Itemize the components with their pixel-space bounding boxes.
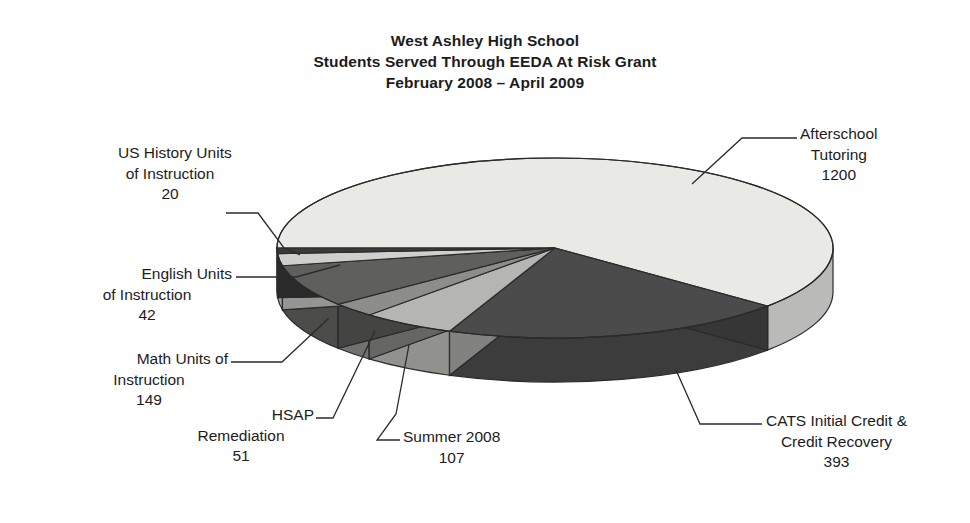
callout-math-value: 149	[70, 390, 228, 411]
callout-math-line2: Instruction	[70, 370, 228, 391]
callout-hsap-value: 51	[168, 446, 314, 467]
callout-ushistory-value: 20	[118, 184, 222, 205]
callout-summer-line1: Summer 2008	[403, 427, 500, 448]
callout-ushistory-line1: US History Units	[118, 143, 222, 164]
callout-ushistory: US History Units of Instruction 20	[118, 143, 222, 205]
pie-slices-group	[277, 158, 833, 382]
callout-summer: Summer 2008 107	[403, 427, 500, 468]
callout-english-line1: English Units	[62, 264, 232, 285]
leader-line-cats	[676, 370, 762, 424]
callout-hsap: HSAP Remediation 51	[168, 405, 314, 467]
callout-afterschool-value: 1200	[800, 165, 878, 186]
callout-math: Math Units of Instruction 149	[70, 349, 228, 411]
callout-cats-line1: CATS Initial Credit &	[766, 411, 907, 432]
callout-cats: CATS Initial Credit & Credit Recovery 39…	[766, 411, 907, 473]
callout-summer-value: 107	[403, 448, 500, 469]
callout-ushistory-line2: of Instruction	[118, 164, 222, 185]
callout-english: English Units of Instruction 42	[62, 264, 232, 326]
callout-english-line2: of Instruction	[62, 285, 232, 306]
pie-chart-figure: West Ashley High School Students Served …	[0, 0, 970, 523]
callout-afterschool-line1: Afterschool	[800, 124, 878, 145]
callout-english-value: 42	[62, 305, 232, 326]
callout-cats-line2: Credit Recovery	[766, 432, 907, 453]
callout-math-line1: Math Units of	[70, 349, 228, 370]
callout-cats-value: 393	[766, 452, 907, 473]
callout-hsap-line2: Remediation	[168, 426, 314, 447]
callout-afterschool-line2: Tutoring	[800, 145, 878, 166]
callout-afterschool: Afterschool Tutoring 1200	[800, 124, 878, 186]
